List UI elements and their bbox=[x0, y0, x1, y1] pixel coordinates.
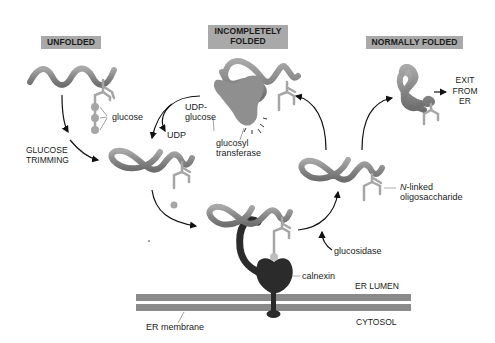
glucosyl-transferase-enzyme bbox=[214, 76, 264, 126]
glucose-trimmed-protein bbox=[301, 160, 396, 200]
label-exit-2: FROM bbox=[450, 86, 480, 97]
label-udp-glucose-1: UDP- bbox=[185, 102, 216, 112]
arrow-udp-release bbox=[162, 104, 172, 131]
arrow-unfolded-down bbox=[62, 95, 68, 132]
label-er-lumen: ER LUMEN bbox=[355, 281, 399, 291]
calnexin-bound-protein bbox=[209, 207, 300, 318]
label-udp-glucose-2: glucose bbox=[185, 112, 216, 122]
label-glucosidase: glucosidase bbox=[334, 246, 382, 256]
arrow-glucosidase-trim bbox=[298, 192, 338, 230]
label-n-linked-oligosaccharide: N-linked oligosaccharide bbox=[400, 182, 463, 202]
stage-label-unfolded: UNFOLDED bbox=[41, 36, 101, 49]
label-n-linked-suffix: -linked bbox=[407, 182, 434, 192]
label-glucosyl-transferase-2: transferase bbox=[216, 148, 261, 158]
label-udp-glucose: UDP- glucose bbox=[185, 102, 216, 122]
label-glucose-trimming-2: TRIMMING bbox=[26, 155, 69, 165]
arrow-to-normally-folded bbox=[362, 98, 392, 150]
normally-folded-protein bbox=[400, 67, 446, 124]
label-oligosaccharide: oligosaccharide bbox=[400, 192, 463, 202]
label-udp: UDP bbox=[167, 130, 186, 140]
label-calnexin: calnexin bbox=[302, 271, 335, 281]
stage-label-incompletely-folded: INCOMPLETELY FOLDED bbox=[208, 25, 288, 49]
label-exit-from-er: EXIT FROM ER bbox=[450, 75, 480, 107]
calnexin-cycle-diagram: UNFOLDED INCOMPLETELY FOLDED NORMALLY FO… bbox=[0, 0, 495, 343]
stage-label-incompletely-text-2: FOLDED bbox=[208, 36, 288, 46]
label-glucosyl-transferase: glucosyl transferase bbox=[216, 138, 261, 158]
label-glucosyl-transferase-1: glucosyl bbox=[216, 138, 261, 148]
stage-label-normally-folded-text: NORMALLY FOLDED bbox=[371, 37, 457, 47]
label-exit-3: ER bbox=[450, 96, 480, 107]
label-glucose-trimming: GLUCOSE TRIMMING bbox=[26, 145, 69, 165]
stage-label-incompletely-text-1: INCOMPLETELY bbox=[208, 26, 288, 36]
calnexin-body bbox=[256, 258, 293, 294]
unfolded-protein bbox=[30, 69, 114, 135]
label-glucose: glucose bbox=[112, 112, 143, 122]
diagram-artwork bbox=[0, 0, 495, 343]
stage-label-unfolded-text: UNFOLDED bbox=[47, 37, 95, 47]
arrow-to-trimmed bbox=[70, 140, 98, 160]
label-glucose-trimming-1: GLUCOSE bbox=[26, 145, 69, 155]
calnexin-arm bbox=[240, 220, 258, 272]
label-cytosol: CYTOSOL bbox=[356, 317, 396, 327]
arrow-glucosidase-pointer bbox=[322, 232, 332, 250]
incompletely-folded-protein bbox=[214, 61, 298, 140]
label-exit-1: EXIT bbox=[450, 75, 480, 86]
arrow-to-incompletely-folded bbox=[296, 96, 326, 150]
monoglucosylated-protein bbox=[111, 151, 192, 209]
stage-label-normally-folded: NORMALLY FOLDED bbox=[366, 36, 463, 49]
label-er-membrane: ER membrane bbox=[146, 322, 204, 332]
